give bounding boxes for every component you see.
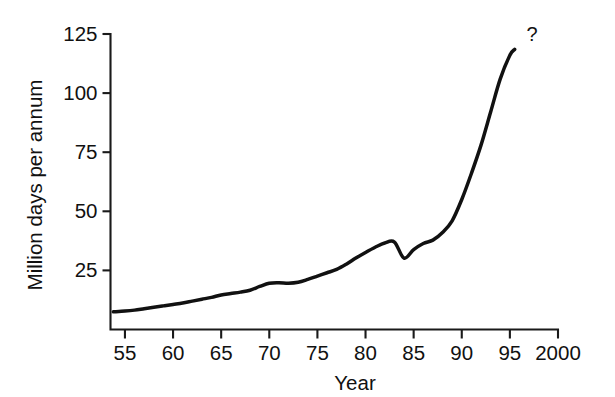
x-tick-label: 70 bbox=[258, 341, 281, 364]
y-tick-label: 25 bbox=[75, 258, 98, 281]
x-tick-label: 65 bbox=[210, 341, 233, 364]
x-tick-label: 60 bbox=[162, 341, 185, 364]
x-tick-label: 85 bbox=[402, 341, 425, 364]
y-tick-label: 125 bbox=[63, 22, 97, 45]
x-tick-label: 90 bbox=[450, 341, 473, 364]
y-tick-label: 75 bbox=[75, 140, 98, 163]
y-axis-title: Million days per annum bbox=[23, 80, 46, 291]
x-tick-label: 80 bbox=[354, 341, 377, 364]
line-chart: 255075100125 5560657075808590952000 ? Ye… bbox=[0, 0, 615, 397]
x-axis-title: Year bbox=[334, 371, 376, 394]
y-tick-label: 100 bbox=[63, 81, 97, 104]
x-tick-label: 2000 bbox=[535, 341, 581, 364]
x-tick-label: 95 bbox=[498, 341, 521, 364]
annotations: ? bbox=[526, 23, 537, 45]
x-tick-label: 55 bbox=[114, 341, 137, 364]
y-tick-label: 50 bbox=[75, 199, 98, 222]
x-tick-label: 75 bbox=[306, 341, 329, 364]
chart-container: 255075100125 5560657075808590952000 ? Ye… bbox=[0, 0, 615, 397]
question-mark-annotation: ? bbox=[526, 23, 537, 45]
